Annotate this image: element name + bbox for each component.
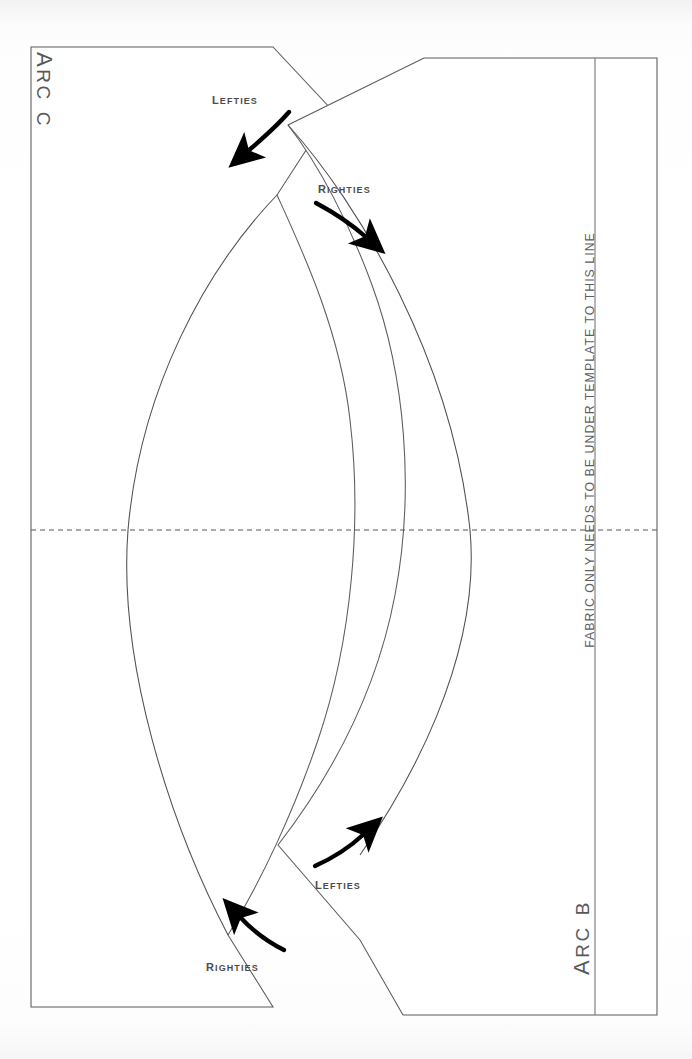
annotation-righties-top: Righties [318, 179, 371, 197]
annotation-lefties-top: Lefties [212, 90, 258, 108]
annotation-lefties-bottom: Lefties [315, 875, 361, 893]
fabric-line-note: FABRIC ONLY NEEDS TO BE UNDER TEMPLATE T… [583, 232, 597, 648]
piece-label-arc-b: Arc B [560, 900, 597, 975]
annotation-righties-bottom: Righties [206, 957, 259, 975]
arrow-righties-bottom [240, 917, 284, 950]
piece-label-arc-c: Arc C [29, 52, 66, 128]
template-page: Arc C Arc B FABRIC ONLY NEEDS TO BE UNDE… [0, 0, 692, 1059]
